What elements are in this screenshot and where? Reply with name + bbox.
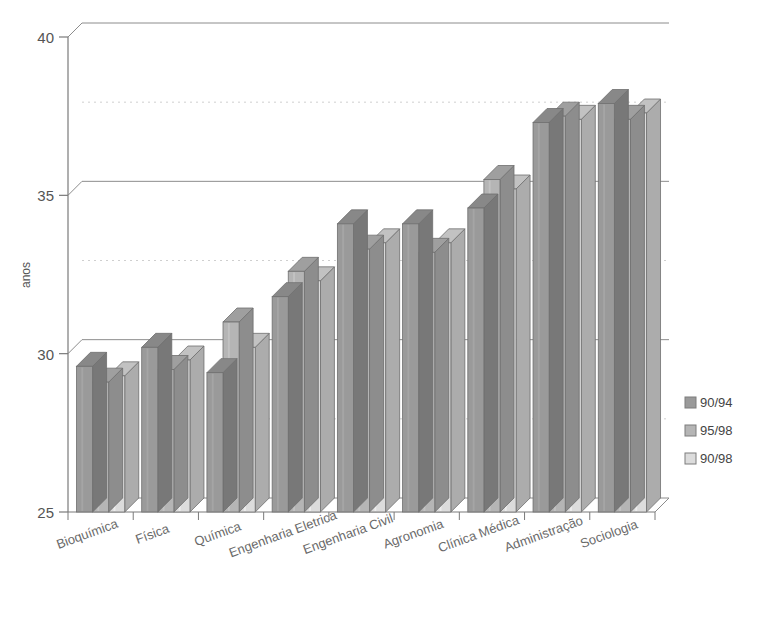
y-tick-label: 30: [37, 346, 54, 363]
y-axis: 25303540anos: [19, 29, 68, 521]
bar-side-face: [255, 333, 269, 512]
bar-side-face: [370, 235, 384, 512]
bar-side-face: [419, 210, 433, 512]
legend-item[interactable]: 90/94: [685, 395, 733, 410]
bar-highlight: [473, 209, 475, 511]
bar-side-face: [93, 352, 107, 512]
bar-side-face: [353, 210, 367, 512]
bar-front-face: [468, 208, 484, 512]
bar-side-face: [320, 267, 334, 512]
bar-side-face: [581, 105, 595, 512]
cropped-title-fragment: [300, 0, 490, 5]
legend-item[interactable]: 90/98: [685, 451, 733, 466]
bar-3d: [598, 90, 628, 513]
bar-side-face: [174, 356, 188, 513]
gridline-depth-connector: [68, 181, 82, 195]
bar-side-face: [109, 368, 123, 512]
bar-side-face: [516, 175, 530, 512]
bar-side-face: [630, 105, 644, 512]
bar-front-face: [207, 373, 223, 512]
bar-front-face: [337, 224, 353, 512]
x-category-label: Engenharia Eletrica: [227, 507, 339, 560]
bar-side-face: [304, 257, 318, 512]
bar-side-face: [614, 90, 628, 513]
legend[interactable]: 90/9495/9890/98: [685, 395, 733, 466]
bar-3d: [76, 352, 106, 512]
bar-highlight: [81, 367, 83, 511]
bar-3d: [272, 283, 302, 512]
gridline-depth-connector: [68, 340, 82, 354]
legend-item[interactable]: 95/98: [685, 423, 733, 438]
bar-highlight: [342, 225, 344, 511]
bar-3d: [337, 210, 367, 512]
bar-highlight: [407, 225, 409, 511]
legend-swatch: [685, 397, 696, 408]
bar-front-face: [533, 123, 549, 513]
bar-3d: [533, 109, 563, 513]
bar-front-face: [76, 366, 92, 512]
bar-3d: [403, 210, 433, 512]
x-category-label: Sociologia: [578, 516, 640, 551]
bar-front-face: [598, 104, 614, 513]
bar-side-face: [386, 229, 400, 512]
bar-highlight: [538, 124, 540, 512]
bar-side-face: [549, 109, 563, 513]
bar-front-face: [142, 347, 158, 512]
bar-highlight: [147, 348, 149, 511]
bar-front-face: [272, 297, 288, 512]
y-tick-label: 25: [37, 504, 54, 521]
bar-side-face: [223, 359, 237, 512]
bar-highlight: [277, 298, 279, 511]
bar-side-face: [288, 283, 302, 512]
bar-highlight: [603, 105, 605, 512]
y-tick-label: 40: [37, 29, 54, 46]
bar-chart-3d: 25303540anosBioquímicaFísicaQuímicaEngen…: [0, 0, 760, 628]
y-tick-label: 35: [37, 187, 54, 204]
y-axis-title: anos: [19, 262, 33, 288]
legend-swatch: [685, 425, 696, 436]
gridline-depth-connector: [68, 23, 82, 37]
x-category-label: Bioquímica: [54, 515, 120, 551]
legend-label: 90/94: [700, 395, 733, 410]
bar-side-face: [647, 99, 661, 512]
chart-container: 25303540anosBioquímicaFísicaQuímicaEngen…: [0, 0, 760, 628]
legend-swatch: [685, 453, 696, 464]
bar-side-face: [451, 229, 465, 512]
bar-side-face: [239, 308, 253, 512]
x-axis-categories: BioquímicaFísicaQuímicaEngenharia Eletri…: [54, 507, 655, 560]
bar-side-face: [500, 166, 514, 513]
legend-label: 90/98: [700, 451, 733, 466]
bar-side-face: [484, 194, 498, 512]
bar-side-face: [158, 333, 172, 512]
bar-highlight: [212, 374, 214, 511]
bar-side-face: [125, 362, 139, 512]
bar-3d: [142, 333, 172, 512]
bar-front-face: [403, 224, 419, 512]
bar-side-face: [565, 102, 579, 512]
bar-3d: [468, 194, 498, 512]
bar-side-face: [190, 346, 204, 512]
bar-side-face: [435, 238, 449, 512]
bar-3d: [207, 359, 237, 512]
x-category-label: Física: [133, 521, 171, 547]
legend-label: 95/98: [700, 423, 733, 438]
